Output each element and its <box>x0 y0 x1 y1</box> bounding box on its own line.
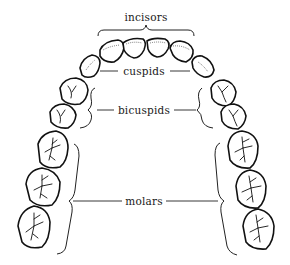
incisor-tooth <box>170 41 193 62</box>
incisor-tooth <box>123 39 145 59</box>
cuspids-label: cuspids <box>121 65 167 77</box>
molar-tooth <box>38 131 68 168</box>
molars-label: molars <box>123 195 165 207</box>
incisors-label: incisors <box>122 11 169 23</box>
molars-left-group <box>18 131 68 248</box>
dental-arch-drawing <box>0 0 290 265</box>
incisor-tooth <box>147 38 169 57</box>
incisors-brace <box>98 25 194 36</box>
bicuspids-brace-right <box>197 88 213 128</box>
bicuspids-right-group <box>211 80 246 129</box>
molar-tooth <box>26 168 60 206</box>
bicuspid-tooth <box>50 104 76 128</box>
cuspid-tooth-left <box>80 55 100 77</box>
bicuspid-tooth <box>211 80 236 106</box>
bicuspids-label: bicuspids <box>116 104 172 116</box>
incisor-tooth <box>100 40 124 62</box>
bicuspids-left-group <box>50 78 88 128</box>
molars-right-group <box>228 131 274 249</box>
dental-arch-diagram: incisors cuspids bicuspids molars <box>0 0 290 265</box>
incisors-group <box>100 38 193 62</box>
bicuspid-tooth <box>60 78 88 104</box>
